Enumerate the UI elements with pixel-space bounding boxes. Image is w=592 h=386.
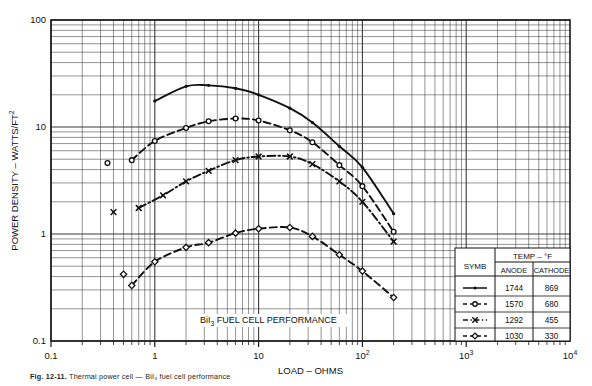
data-point-marker [310,140,315,145]
data-point-marker [337,163,342,168]
data-point-marker [361,166,364,169]
data-point-marker [473,302,477,306]
x-tick-label-2: 10 [253,350,264,361]
x-axis-minor-ticks [51,341,565,347]
data-point-marker [288,107,291,110]
data-point-marker [153,99,156,102]
data-point-marker [105,161,110,166]
data-point-marker [129,158,134,163]
figure-caption: Fig. 12-11. Thermal power cell — BiI₃ fu… [30,372,450,381]
y-tick-label-1: 1 [41,228,46,239]
x-tick-label-5: 104 [563,349,578,361]
data-point-marker [473,286,476,289]
data-point-marker [152,139,157,144]
data-point-marker [287,128,292,133]
legend-cathode-value-0: 869 [545,284,559,293]
data-point-marker [392,212,395,215]
legend-anode-value-1: 1570 [505,300,524,309]
data-point-marker [338,145,341,148]
legend-symb-header: SYMB [464,262,487,271]
legend-temp-header: TEMP – °F [513,252,552,261]
data-point-marker [205,240,211,246]
figure-caption-text: Thermal power cell — BiI₃ fuel cell perf… [69,372,230,381]
y-tick-label-0: 0.1 [33,335,46,346]
figure-container: 0.11101021031040.1110100LOAD – OHMSPOWER… [0,0,592,386]
y-tick-label-3: 100 [30,14,46,25]
series-0 [153,84,395,216]
legend-anode-value-0: 1744 [505,284,524,293]
legend-cathode-value-3: 330 [545,332,559,341]
y-axis-title: POWER DENSITY – WATTS/FT2 [8,110,20,251]
legend-anode-value-2: 1292 [505,316,524,325]
data-point-marker [207,84,210,87]
data-point-marker [255,226,261,232]
chart-plot: 0.11101021031040.1110100LOAD – OHMSPOWER… [0,0,592,386]
legend-cathode-value-2: 455 [545,316,559,325]
series-line-3 [132,227,394,297]
x-tick-label-3: 102 [355,349,370,361]
data-point-marker [256,118,261,123]
data-point-marker [311,121,314,124]
data-point-marker [232,230,238,236]
data-point-marker [391,229,396,234]
data-point-marker [183,244,189,250]
legend-anode-header: ANODE [501,266,527,275]
y-tick-label-2: 10 [35,121,46,132]
legend-anode-value-3: 1030 [505,332,524,341]
legend-cathode-header: CATHODE [534,266,570,275]
figure-caption-label: Fig. 12-11. [30,372,67,381]
data-point-marker [160,192,166,198]
x-tick-label-0: 0.1 [44,350,57,361]
data-point-marker [234,87,237,90]
series-2 [111,154,397,245]
data-point-marker [257,93,260,96]
x-tick-label-4: 103 [459,349,474,361]
data-point-marker [233,116,238,121]
x-tick-label-1: 1 [152,350,157,361]
series-line-1 [132,118,394,231]
legend-cathode-value-1: 680 [545,300,559,309]
data-point-marker [184,85,187,88]
data-point-marker [206,119,211,124]
data-point-marker [287,224,293,230]
data-point-marker [184,126,189,131]
data-point-marker [360,184,365,189]
